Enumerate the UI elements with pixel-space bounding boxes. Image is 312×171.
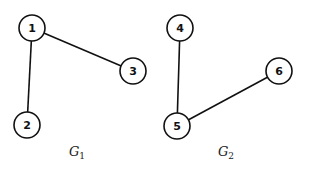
node-3: 3 bbox=[120, 58, 146, 84]
graph-g2: 4 6 5 G2 bbox=[164, 15, 292, 161]
edge-4-5 bbox=[177, 28, 180, 126]
node-label: 3 bbox=[129, 65, 137, 78]
node-6: 6 bbox=[266, 58, 292, 84]
node-label: 2 bbox=[23, 119, 31, 132]
node-4: 4 bbox=[167, 15, 193, 41]
graph-label-g2: G2 bbox=[218, 144, 234, 161]
edge-1-2 bbox=[27, 28, 32, 125]
node-1: 1 bbox=[19, 15, 45, 41]
edge-5-6 bbox=[177, 71, 279, 126]
node-label: 5 bbox=[173, 120, 181, 133]
graph-g1: 1 3 2 G1 bbox=[14, 15, 146, 161]
node-2: 2 bbox=[14, 112, 40, 138]
node-label: 1 bbox=[28, 22, 36, 35]
graph-label-g1: G1 bbox=[69, 144, 85, 161]
edge-1-3 bbox=[32, 28, 133, 71]
node-5: 5 bbox=[164, 113, 190, 139]
node-label: 6 bbox=[275, 65, 283, 78]
graph-diagram: 1 3 2 G1 4 6 5 G2 bbox=[0, 0, 312, 171]
node-label: 4 bbox=[176, 22, 184, 35]
